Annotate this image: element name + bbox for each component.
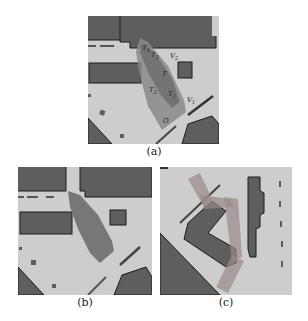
panel-c-map bbox=[160, 167, 292, 295]
panel-b-map bbox=[18, 167, 152, 295]
caption-b: (b) bbox=[65, 296, 105, 309]
caption-c: (c) bbox=[206, 296, 246, 309]
caption-a: (a) bbox=[134, 145, 174, 158]
svg-text:O: O bbox=[163, 117, 169, 125]
panel-a-map: T4 T3 V2 T T2 T1 V1 O bbox=[88, 16, 219, 144]
